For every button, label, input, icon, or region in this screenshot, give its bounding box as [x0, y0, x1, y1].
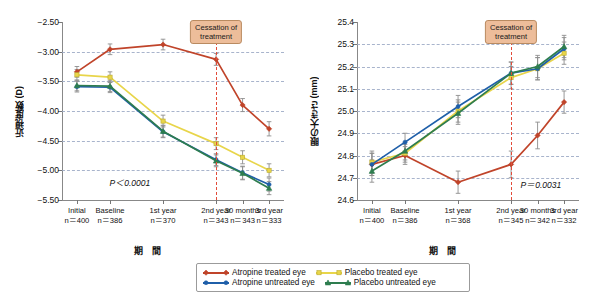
plot-area-right: 25.425.325.225.125.024.924.824.724.6Init… [357, 22, 579, 200]
legend-item[interactable]: Atropine untreated eye [203, 278, 315, 287]
x-tick-mark [243, 200, 244, 204]
series-diamond [369, 99, 566, 184]
p-value-annotation: P＝0.0031 [521, 178, 562, 190]
x-tick-sample-size: n＝370 [150, 216, 177, 226]
x-tick-period: 3rd year [550, 206, 578, 215]
x-axis-title-right: 期 間 [295, 244, 590, 257]
x-tick-period: Baseline [390, 206, 419, 215]
x-tick-label: Baselinen＝386 [390, 206, 419, 226]
x-tick-label: 1st yearn＝368 [445, 206, 472, 226]
series-layer [62, 22, 284, 200]
x-tick-label: 1st yearn＝370 [150, 206, 177, 226]
x-tick-mark [216, 200, 217, 204]
cessation-line2: treatment [490, 32, 532, 41]
y-tick-label: −3.00 [37, 47, 59, 57]
cessation-line1: Cessation of [490, 23, 532, 32]
legend-key-diamond-icon [203, 268, 229, 277]
cessation-annotation: Cessation oftreatment [190, 20, 242, 44]
y-axis-label-left: 近視度数 (D) [12, 54, 25, 168]
x-tick-period: Initial [68, 206, 86, 215]
x-tick-mark [458, 200, 459, 204]
y-tick-label: 24.8 [337, 151, 354, 161]
x-tick-label: 3rd yearn＝333 [255, 206, 283, 226]
y-tick-label: 24.6 [337, 195, 354, 205]
x-tick-period: Baseline [95, 206, 124, 215]
y-tick-label: −5.50 [37, 195, 59, 205]
y-tick-label: 25.2 [337, 62, 354, 72]
series-circle [75, 85, 271, 187]
y-tick-label: 25.1 [337, 84, 354, 94]
x-tick-sample-size: n＝386 [390, 216, 419, 226]
x-tick-sample-size: n＝368 [445, 216, 472, 226]
x-tick-mark [538, 200, 539, 204]
x-tick-mark [269, 200, 270, 204]
x-tick-mark [77, 200, 78, 204]
x-tick-label: Initialn＝400 [359, 206, 384, 226]
x-tick-mark [405, 200, 406, 204]
cessation-annotation: Cessation oftreatment [485, 20, 537, 44]
x-tick-mark [110, 200, 111, 204]
y-axis-label-right: 眼の大きさ (mm) [307, 54, 320, 168]
y-tick-label: −5.00 [37, 165, 59, 175]
x-tick-mark [163, 200, 164, 204]
x-tick-period: 1st year [445, 206, 472, 215]
y-tick-label: 25.3 [337, 39, 354, 49]
x-tick-mark [511, 200, 512, 204]
legend-label: Placebo untreated eye [354, 278, 436, 287]
legend-item[interactable]: Placebo untreated eye [325, 278, 436, 287]
legend-label: Placebo treated eye [345, 268, 418, 277]
x-tick-label: Baselinen＝386 [95, 206, 124, 226]
plot-area-left: −2.50−3.00−3.50−4.00−4.50−5.00−5.50Initi… [62, 22, 284, 200]
chart-legend: Atropine treated eyePlacebo treated eyeA… [196, 263, 470, 292]
y-tick-label: −4.50 [37, 136, 59, 146]
figure-root: 近視度数 (D) −2.50−3.00−3.50−4.00−4.50−5.00−… [0, 0, 590, 306]
y-tick-label: −3.50 [37, 76, 59, 86]
legend-key-circle-icon [203, 278, 229, 287]
x-tick-mark [564, 200, 565, 204]
cessation-line1: Cessation of [195, 23, 237, 32]
x-tick-label: Initialn＝400 [64, 206, 89, 226]
y-tick-label: 25.0 [337, 106, 354, 116]
legend-label: Atropine untreated eye [232, 278, 315, 287]
cessation-line2: treatment [195, 32, 237, 41]
x-tick-mark [372, 200, 373, 204]
y-tick-label: 24.9 [337, 128, 354, 138]
legend-key-square-icon [316, 268, 342, 277]
chart-panel-left: 近視度数 (D) −2.50−3.00−3.50−4.00−4.50−5.00−… [0, 0, 295, 258]
legend-item[interactable]: Placebo treated eye [316, 268, 418, 277]
y-tick-label: −4.00 [37, 106, 59, 116]
x-tick-period: 3rd year [255, 206, 283, 215]
cessation-marker-line [216, 22, 217, 200]
x-tick-sample-size: n＝386 [95, 216, 124, 226]
p-value-annotation: P＜0.0001 [110, 176, 151, 188]
y-tick-label: 24.7 [337, 173, 354, 183]
legend-label: Atropine treated eye [232, 268, 306, 277]
legend-item[interactable]: Atropine treated eye [203, 268, 306, 277]
x-axis-line [357, 200, 579, 201]
y-tick-label: −2.50 [37, 17, 59, 27]
cessation-marker-line [511, 22, 512, 200]
x-tick-sample-size: n＝400 [64, 216, 89, 226]
legend-key-triangle-icon [325, 278, 351, 287]
x-tick-label: 3rd yearn＝332 [550, 206, 578, 226]
chart-panel-right: 眼の大きさ (mm) 25.425.325.225.125.024.924.82… [295, 0, 590, 258]
y-tick-label: 25.4 [337, 17, 354, 27]
x-tick-sample-size: n＝333 [255, 216, 283, 226]
x-tick-sample-size: n＝400 [359, 216, 384, 226]
series-layer [357, 22, 579, 200]
x-tick-sample-size: n＝332 [550, 216, 578, 226]
x-axis-title-left: 期 間 [0, 244, 295, 257]
x-tick-period: Initial [363, 206, 381, 215]
x-tick-period: 1st year [150, 206, 177, 215]
x-axis-line [62, 200, 284, 201]
